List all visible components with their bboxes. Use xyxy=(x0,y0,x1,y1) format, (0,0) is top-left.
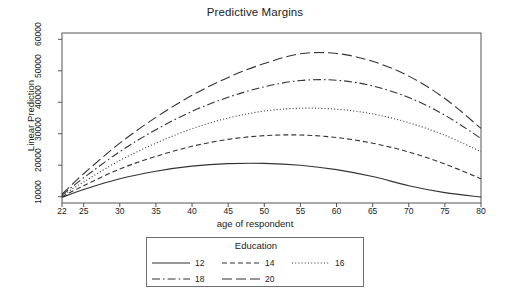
y-tick-label: 60000 xyxy=(33,30,43,46)
series-line-18 xyxy=(62,80,481,196)
legend-label-12: 12 xyxy=(195,258,204,268)
legend-item-16[interactable]: 16 xyxy=(291,255,361,271)
x-tick-label: 60 xyxy=(325,206,349,216)
legend-item-14[interactable]: 14 xyxy=(221,255,291,271)
legend-swatch-12 xyxy=(151,258,191,268)
x-tick-label: 75 xyxy=(433,206,457,216)
x-tick-label: 80 xyxy=(469,206,493,216)
y-tick-label: 10000 xyxy=(33,188,43,204)
legend-label-16: 16 xyxy=(335,258,344,268)
legend-swatch-16 xyxy=(291,258,331,268)
legend-item-12[interactable]: 12 xyxy=(151,255,221,271)
legend: Education 1214161820 xyxy=(146,237,364,287)
legend-swatch-14 xyxy=(221,258,261,268)
x-tick-label: 70 xyxy=(397,206,421,216)
legend-item-20[interactable]: 20 xyxy=(221,271,291,287)
series-line-12 xyxy=(62,163,481,197)
x-tick-label: 45 xyxy=(216,206,240,216)
legend-swatch-18 xyxy=(151,274,191,284)
y-tick-label: 20000 xyxy=(33,156,43,172)
x-tick-label: 30 xyxy=(108,206,132,216)
series-line-14 xyxy=(62,135,481,197)
x-tick-label: 50 xyxy=(252,206,276,216)
legend-label-14: 14 xyxy=(265,258,274,268)
x-axis-label: age of respondent xyxy=(0,218,510,229)
x-tick-label: 35 xyxy=(144,206,168,216)
x-tick-label: 22 xyxy=(50,206,74,216)
series-line-20 xyxy=(62,53,481,195)
legend-title: Education xyxy=(147,240,365,251)
y-tick-label: 40000 xyxy=(33,93,43,109)
x-tick-label: 65 xyxy=(361,206,385,216)
chart-title: Predictive Margins xyxy=(0,6,510,18)
x-tick-label: 40 xyxy=(180,206,204,216)
x-tick-label: 55 xyxy=(288,206,312,216)
y-tick-label: 30000 xyxy=(33,125,43,141)
y-axis-tick-labels: 100002000030000400005000060000 xyxy=(30,25,46,210)
legend-label-18: 18 xyxy=(195,274,204,284)
legend-label-20: 20 xyxy=(265,274,274,284)
y-tick-label: 50000 xyxy=(33,62,43,78)
x-tick-label: 25 xyxy=(72,206,96,216)
legend-swatch-20 xyxy=(221,274,261,284)
legend-item-18[interactable]: 18 xyxy=(151,271,221,287)
legend-entries: 1214161820 xyxy=(151,255,361,287)
predictive-margins-figure: Predictive Margins Linear Prediction 100… xyxy=(0,0,510,298)
series-line-16 xyxy=(62,108,481,196)
